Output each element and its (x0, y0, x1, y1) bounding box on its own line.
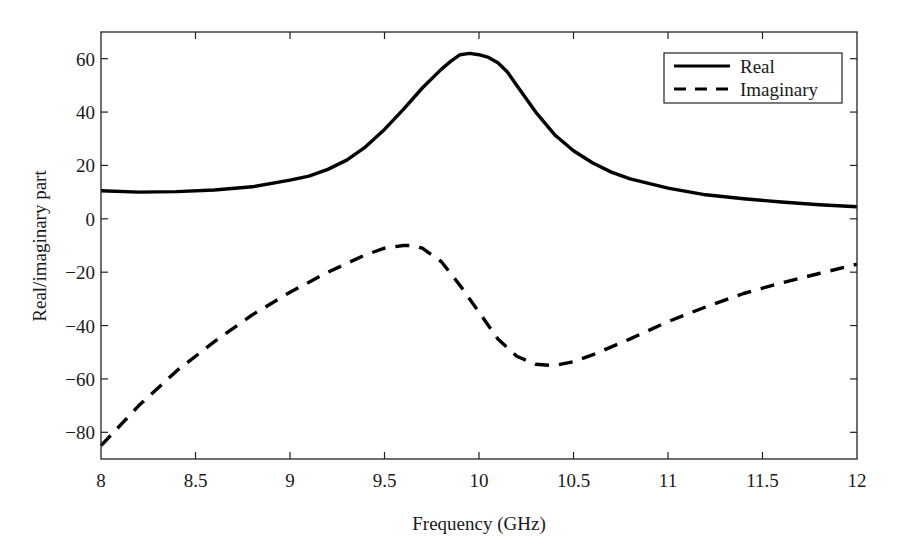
y-axis: −80−60−40−200204060 (65, 49, 857, 444)
x-tick-label: 9 (285, 470, 295, 491)
legend-imaginary-label: Imaginary (740, 79, 819, 100)
x-tick-label: 8 (96, 470, 106, 491)
x-tick-label: 9.5 (373, 470, 397, 491)
x-axis-label: Frequency (GHz) (412, 513, 545, 535)
y-tick-label: −20 (65, 262, 95, 283)
y-axis-label: Real/imaginary part (29, 170, 50, 322)
plot-area (101, 53, 857, 445)
y-tick-label: −40 (65, 316, 95, 337)
x-tick-label: 11.5 (746, 470, 779, 491)
legend-real-label: Real (740, 56, 775, 77)
y-tick-label: 60 (76, 49, 95, 70)
x-tick-label: 10 (470, 470, 489, 491)
x-tick-label: 10.5 (557, 470, 590, 491)
y-tick-label: 20 (76, 155, 95, 176)
legend: Real Imaginary (664, 53, 842, 103)
y-tick-label: 40 (76, 102, 95, 123)
y-tick-label: −80 (65, 422, 95, 443)
x-tick-label: 12 (848, 470, 867, 491)
y-tick-label: −60 (65, 369, 95, 390)
x-tick-label: 11 (659, 470, 677, 491)
y-tick-label: 0 (86, 209, 96, 230)
chart: 88.599.51010.51111.512 −80−60−40−2002040… (0, 0, 899, 544)
series-imaginary-line (101, 246, 857, 446)
x-tick-label: 8.5 (184, 470, 208, 491)
